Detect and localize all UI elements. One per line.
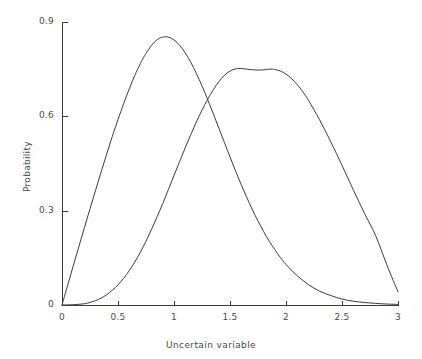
y-tick-label: 0.9 [0, 16, 54, 26]
chart-plot-area [0, 0, 422, 359]
x-tick-label: 1 [154, 312, 194, 322]
curve-distribution-1 [62, 37, 398, 305]
x-tick-label: 1.5 [210, 312, 250, 322]
x-tick-label: 0 [42, 312, 82, 322]
y-tick-label: 0.3 [0, 205, 54, 215]
data-curves [62, 37, 398, 305]
x-tick-label: 2.5 [322, 312, 362, 322]
x-tick-label: 3 [378, 312, 418, 322]
y-tick-label: 0 [0, 299, 54, 309]
y-axis-title: Probability [22, 141, 32, 192]
axis-tick-marks [63, 23, 399, 306]
curve-distribution-2 [62, 69, 398, 305]
y-tick-label: 0.6 [0, 110, 54, 120]
x-tick-label: 2 [266, 312, 306, 322]
x-axis-title: Uncertain variable [0, 340, 422, 350]
probability-distribution-figure: 0.9 0.6 0.3 0 0 0.5 1 1.5 2 2.5 3 Probab… [0, 0, 422, 359]
x-tick-label: 0.5 [98, 312, 138, 322]
axis-lines [62, 22, 399, 306]
